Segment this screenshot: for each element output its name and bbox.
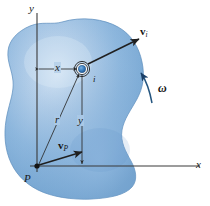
- velocity-symbol-i: v: [140, 25, 146, 37]
- velocity-label-i: vi: [140, 26, 148, 37]
- point-label-i: i: [93, 75, 96, 84]
- velocity-subscript-i: i: [146, 30, 148, 39]
- particle-marker-i: [74, 61, 89, 76]
- dimension-label-r: r: [54, 114, 60, 125]
- point-label-P: P: [24, 173, 31, 184]
- point-marker-P: [34, 163, 39, 168]
- y-axis-label: y: [29, 3, 34, 14]
- velocity-label-P: vP: [58, 140, 68, 151]
- angular-velocity-label: ω: [158, 82, 167, 94]
- dimension-label-y: y: [77, 115, 84, 126]
- kinematics-figure: [0, 0, 210, 206]
- velocity-symbol-P: v: [58, 139, 64, 151]
- velocity-subscript-P: P: [64, 144, 69, 153]
- x-axis-label: x: [196, 159, 201, 170]
- dimension-label-x: x: [54, 62, 61, 73]
